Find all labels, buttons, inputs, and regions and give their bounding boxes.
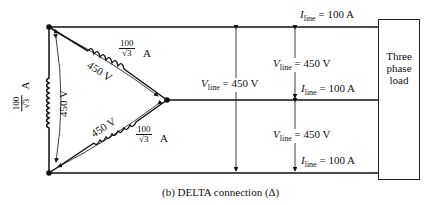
line-current-middle: Iline = 100 A [301, 83, 355, 97]
phase-current-top-unit: A [143, 48, 151, 59]
figure-caption: (b) DELTA connection (Δ) [162, 186, 279, 198]
load-label: Three phase load [379, 50, 419, 86]
phase-voltage-left: 450 V [58, 90, 69, 117]
phase-current-left: 100√3 [12, 96, 31, 112]
three-phase-load-box: Three phase load [378, 19, 420, 180]
line-voltage-lower: Vline = 450 V [273, 129, 330, 143]
phase-current-bottom: 100√3 [136, 125, 152, 144]
line-current-top: Iline = 100 A [300, 9, 354, 23]
phase-current-bottom-unit: A [160, 133, 168, 144]
phase-current-top: 100√3 [119, 39, 135, 58]
phase-current-left-unit: A [20, 82, 31, 90]
node-top [46, 24, 52, 30]
line-voltage-long: Vline = 450 V [201, 78, 258, 92]
line-current-bottom: Iline = 100 A [301, 155, 355, 169]
node-middle [164, 97, 170, 103]
coil-left [47, 27, 50, 173]
line-voltage-upper: Vline = 450 V [273, 58, 330, 72]
node-bottom [46, 170, 52, 176]
